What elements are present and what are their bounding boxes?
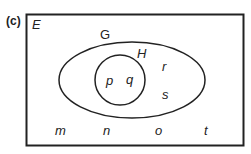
- figure-label: (c): [6, 15, 21, 27]
- element-s: s: [162, 88, 169, 101]
- element-q: q: [126, 73, 133, 86]
- set-g-label: G: [100, 28, 110, 41]
- element-m: m: [55, 124, 66, 137]
- element-t: t: [204, 124, 208, 137]
- element-o: o: [155, 124, 162, 137]
- set-h-circle: [95, 55, 145, 105]
- set-h-label: H: [137, 47, 146, 60]
- element-n: n: [103, 124, 110, 137]
- element-r: r: [162, 60, 166, 73]
- universal-set-label: E: [32, 18, 41, 31]
- element-p: p: [106, 74, 113, 87]
